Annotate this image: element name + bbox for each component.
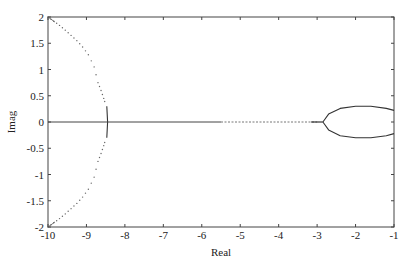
series-lower-branch bbox=[47, 142, 105, 228]
x-tick-label: -8 bbox=[120, 229, 130, 241]
x-axis-ticks: -10-9-8-7-6-5-4-3-2-1 bbox=[41, 17, 399, 241]
x-tick-label: -2 bbox=[351, 229, 360, 241]
root-locus-chart: -10-9-8-7-6-5-4-3-2-1 21.510.50-0.5-1-1.… bbox=[0, 0, 407, 268]
x-tick-label: -5 bbox=[236, 229, 246, 241]
x-tick-label: -3 bbox=[313, 229, 323, 241]
y-tick-label: -2 bbox=[35, 221, 44, 233]
y-tick-label: -0.5 bbox=[27, 142, 45, 154]
x-tick-label: -1 bbox=[389, 229, 398, 241]
x-tick-label: -4 bbox=[274, 229, 284, 241]
y-tick-label: -1 bbox=[35, 169, 44, 181]
y-tick-label: -1.5 bbox=[27, 195, 45, 207]
y-axis-label: Imag bbox=[5, 110, 17, 133]
series-loop-upper bbox=[323, 106, 394, 122]
series-upper-branch bbox=[47, 16, 105, 102]
x-tick-label: -9 bbox=[82, 229, 92, 241]
y-tick-label: 1 bbox=[39, 64, 45, 76]
y-tick-label: 0 bbox=[39, 116, 45, 128]
x-axis-label: Real bbox=[211, 246, 231, 258]
y-tick-label: 2 bbox=[39, 11, 45, 23]
y-tick-label: 0.5 bbox=[30, 90, 44, 102]
series-loop-lower bbox=[323, 122, 394, 138]
y-tick-label: 1.5 bbox=[30, 37, 44, 49]
series-layer bbox=[47, 16, 394, 227]
x-tick-label: -6 bbox=[197, 229, 207, 241]
x-tick-label: -7 bbox=[159, 229, 169, 241]
